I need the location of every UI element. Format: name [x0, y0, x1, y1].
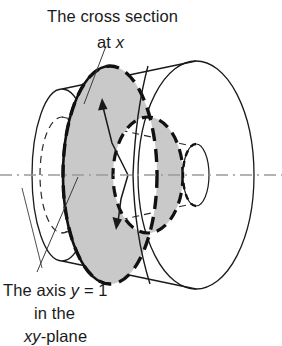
solid-of-revolution-figure: The cross section at x The axis y = 1 in… — [0, 0, 282, 346]
label-cross-section-line1: The cross section — [47, 7, 178, 25]
label-plane-var-xy: xy — [23, 327, 42, 345]
label-axis-line3: xy-plane — [23, 327, 87, 345]
label-axis-suffix: = 1 — [79, 281, 107, 299]
label-axis-prefix: The axis — [3, 281, 71, 299]
figure-page: The cross section at x The axis y = 1 in… — [0, 0, 282, 346]
label-cross-section-var-x: x — [115, 33, 125, 51]
label-axis-line1: The axis y = 1 — [3, 281, 108, 299]
inner-radius-arrow — [118, 175, 128, 222]
label-cross-section-at: at — [97, 33, 116, 51]
label-plane-suffix: -plane — [41, 327, 87, 345]
label-axis-line2: in the — [34, 304, 75, 322]
label-cross-section-line2: at x — [97, 33, 125, 51]
